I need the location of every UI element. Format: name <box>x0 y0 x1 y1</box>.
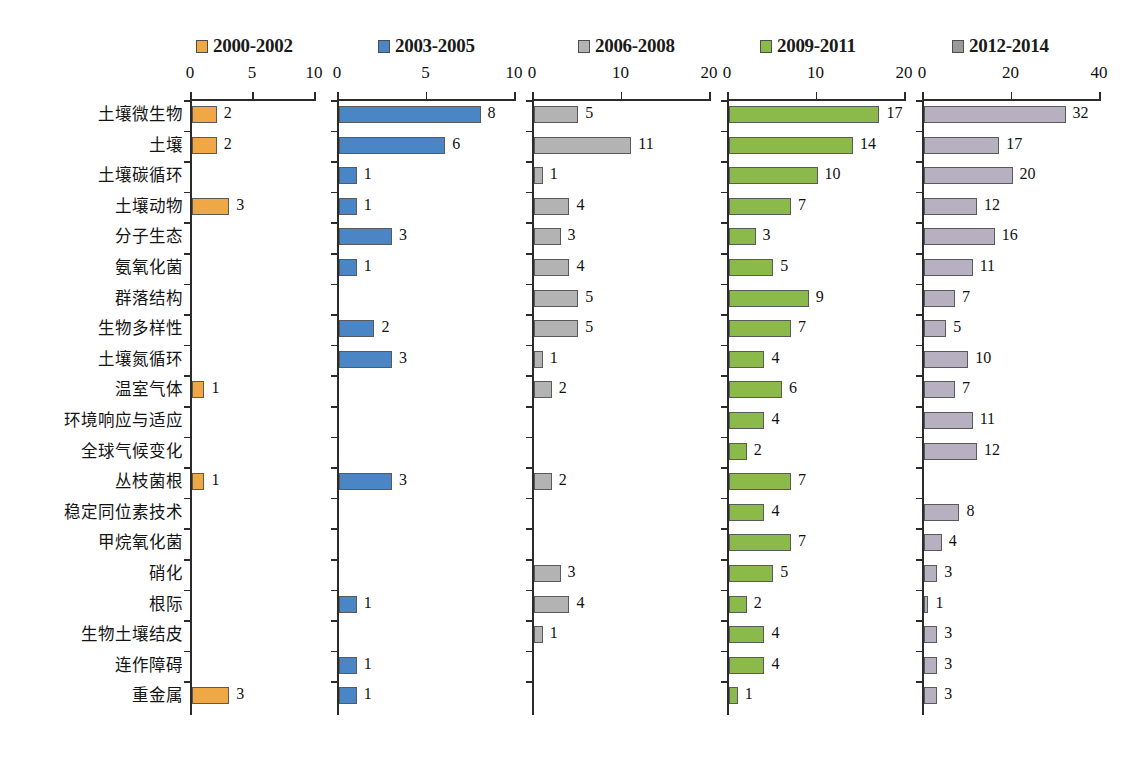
bar-value-label: 5 <box>585 318 593 336</box>
bar-value-label: 7 <box>962 288 970 306</box>
bar-value-label: 3 <box>944 563 952 581</box>
bar-value-label: 2 <box>754 594 762 612</box>
bar-value-label: 1 <box>550 349 558 367</box>
value-axis-2012-2014: 02040 <box>922 63 1130 85</box>
bar-value-label: 3 <box>236 196 244 214</box>
value-axis-tick-label: 0 <box>918 63 927 83</box>
category-axis-tick <box>331 345 337 347</box>
bar-group: 12 <box>924 192 1130 223</box>
category-axis-tick <box>526 590 532 592</box>
bar <box>729 228 756 245</box>
bar-value-label: 3 <box>568 226 576 244</box>
category-axis-tick <box>184 467 190 469</box>
category-axis-tick <box>916 284 922 286</box>
bar <box>729 504 764 521</box>
bar-value-label: 3 <box>944 624 952 642</box>
bar-value-label: 5 <box>585 288 593 306</box>
value-axis-tick-label: 20 <box>1002 63 1019 83</box>
bar <box>534 228 561 245</box>
bar-value-label: 1 <box>211 471 219 489</box>
bar-group: 1 <box>924 590 1130 621</box>
legend-label: 2012-2014 <box>969 35 1049 57</box>
category-axis-tick <box>331 498 337 500</box>
bar <box>729 626 764 643</box>
bar <box>339 198 357 215</box>
category-axis-tick <box>331 192 337 194</box>
bar <box>192 687 229 704</box>
bar-value-label: 4 <box>949 532 957 550</box>
category-axis-tick <box>331 100 337 102</box>
bar-value-label: 3 <box>763 226 771 244</box>
category-axis-tick <box>331 131 337 133</box>
bar-value-label: 3 <box>399 471 407 489</box>
chart-plot-area: 土壤微生物土壤土壤碳循环土壤动物分子生态氨氧化菌群落结构生物多样性土壤氮循环温室… <box>0 63 1130 723</box>
category-axis-tick <box>916 345 922 347</box>
category-axis-tick <box>721 131 727 133</box>
bar <box>924 137 999 154</box>
category-axis-tick <box>721 467 727 469</box>
category-axis-tick <box>331 437 337 439</box>
bar-value-label: 9 <box>816 288 824 306</box>
bar-value-label: 10 <box>825 165 841 183</box>
category-axis-tick <box>331 681 337 683</box>
category-axis-tick <box>184 620 190 622</box>
legend-label: 2009-2011 <box>777 35 856 57</box>
bar <box>924 565 937 582</box>
category-label: 土壤微生物 <box>98 100 183 131</box>
bar <box>729 137 853 154</box>
bar-value-label: 12 <box>984 196 1000 214</box>
bar-value-label: 4 <box>771 624 779 642</box>
value-axis-tick-label: 40 <box>1091 63 1108 83</box>
bar-value-label: 3 <box>236 685 244 703</box>
bar <box>534 290 578 307</box>
bar-group: 5 <box>924 314 1130 345</box>
bar-value-label: 2 <box>381 318 389 336</box>
category-axis-tick <box>721 406 727 408</box>
category-axis-tick <box>526 345 532 347</box>
bar-value-label: 2 <box>559 471 567 489</box>
bar-value-label: 11 <box>980 410 995 428</box>
bar-value-label: 8 <box>966 502 974 520</box>
bar <box>192 198 229 215</box>
bar <box>924 198 977 215</box>
category-axis-tick <box>526 559 532 561</box>
bar <box>339 167 357 184</box>
bar-value-label: 6 <box>452 135 460 153</box>
bar <box>924 534 942 551</box>
legend-item-2003-2005: 2003-2005 <box>378 35 475 57</box>
bar-group: 10 <box>924 345 1130 376</box>
category-axis-tick <box>184 559 190 561</box>
category-label: 分子生态 <box>115 222 183 253</box>
category-axis-tick <box>916 590 922 592</box>
category-axis-tick <box>721 100 727 102</box>
bar-value-label: 2 <box>224 135 232 153</box>
value-axis-tick-label: 0 <box>723 63 732 83</box>
bar-group: 11 <box>924 253 1130 284</box>
bar <box>729 106 879 123</box>
category-axis-tick <box>721 314 727 316</box>
bar-group: 3 <box>924 651 1130 682</box>
bar <box>534 626 543 643</box>
bar <box>924 228 995 245</box>
legend-label: 2006-2008 <box>595 35 675 57</box>
bar <box>339 473 392 490</box>
value-axis-tick-label: 10 <box>506 63 523 83</box>
bar <box>729 596 747 613</box>
bar <box>339 320 374 337</box>
category-axis-tick <box>184 192 190 194</box>
bar <box>339 106 481 123</box>
bar <box>924 259 973 276</box>
category-axis-tick <box>916 559 922 561</box>
bar <box>729 657 764 674</box>
bar-value-label: 7 <box>798 471 806 489</box>
bar <box>534 351 543 368</box>
bar-value-label: 5 <box>585 104 593 122</box>
bar <box>729 412 764 429</box>
bar-value-label: 5 <box>780 257 788 275</box>
bar <box>729 198 791 215</box>
category-axis-tick <box>331 559 337 561</box>
category-axis-tick <box>721 345 727 347</box>
value-axis-tick-label: 10 <box>807 63 824 83</box>
category-axis-tick <box>184 651 190 653</box>
category-axis-tick <box>184 590 190 592</box>
